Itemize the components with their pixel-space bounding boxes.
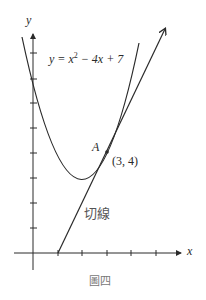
tangent-label: 切線 [84, 207, 110, 220]
point-a-coords: (3, 4) [112, 155, 138, 167]
point-a-label: A [92, 141, 99, 153]
figure-caption: 圖四 [89, 276, 111, 287]
diagram-canvas [0, 0, 206, 300]
curve-equation-label: y = x2 − 4x + 7 [49, 52, 123, 65]
equation-suffix: − 4x + 7 [78, 52, 124, 66]
point-a-dot [105, 150, 109, 154]
x-axis-label: x [187, 245, 192, 257]
equation-prefix: y = x [49, 52, 74, 66]
y-axis-label: y [26, 14, 31, 26]
